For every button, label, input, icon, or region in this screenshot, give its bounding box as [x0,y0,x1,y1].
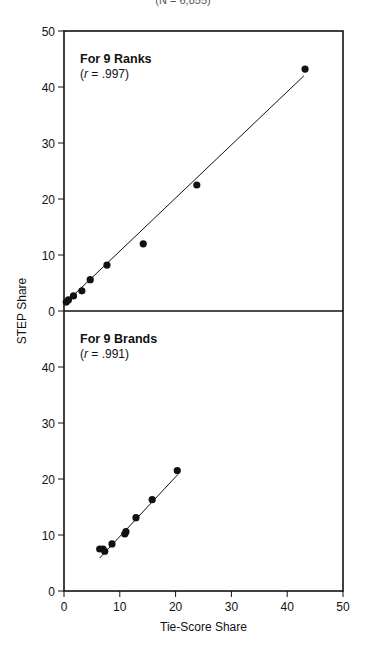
y-tick-label: 0 [48,305,55,319]
data-point [140,240,147,247]
x-tick-label: 20 [169,600,183,614]
y-tick-label: 20 [42,193,56,207]
data-point [87,276,94,283]
scatter-chart: 01020304050For 9 Ranks(r = .997)01020304… [0,0,366,652]
y-tick-label: 0 [48,585,55,599]
data-point [132,514,139,521]
plot-frame [64,31,343,591]
y-tick-label: 40 [42,361,56,375]
data-point [122,528,129,535]
data-point [149,496,156,503]
panel-title: For 9 Ranks [80,52,152,66]
y-tick-label: 20 [42,473,56,487]
x-tick-label: 10 [113,600,127,614]
correlation-label: (r = .991) [80,347,129,361]
x-axis-title: Tie-Score Share [160,620,247,634]
x-tick-label: 30 [225,600,239,614]
y-tick-label: 50 [42,25,56,39]
y-tick-label: 10 [42,249,56,263]
data-point [70,292,77,299]
data-point [103,261,110,268]
data-point [193,181,200,188]
data-point [301,65,308,72]
panel-title: For 9 Brands [80,332,157,346]
data-point [78,287,85,294]
data-point [108,540,115,547]
panel-ranks: 01020304050For 9 Ranks(r = .997) [42,25,309,319]
x-tick-label: 0 [61,600,68,614]
x-tick-label: 50 [336,600,350,614]
y-tick-label: 30 [42,137,56,151]
y-axis-title: STEP Share [15,277,29,344]
data-point [101,548,108,555]
data-point [174,467,181,474]
correlation-label: (r = .997) [80,67,129,81]
x-tick-label: 40 [281,600,295,614]
y-tick-label: 10 [42,529,56,543]
y-tick-label: 40 [42,81,56,95]
regression-line [64,76,304,304]
chart-axes: 01020304050Tie-Score ShareSTEP Share [15,277,350,634]
panel-brands: 010203040For 9 Brands(r = .991) [42,332,181,599]
y-tick-label: 30 [42,417,56,431]
